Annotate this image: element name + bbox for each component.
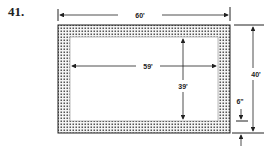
frame-dimension-diagram: 60' 59' 39' 40' 6" — [0, 0, 280, 150]
inner-width-label: 39' — [178, 83, 188, 90]
outer-width-dimension: 40' — [232, 25, 264, 133]
outer-width-label: 40' — [251, 71, 261, 78]
inner-length-label: 59' — [143, 63, 153, 70]
border-frame — [58, 25, 230, 133]
border-width-dimension: 6" — [236, 98, 248, 146]
outer-length-dimension: 60' — [58, 7, 230, 21]
border-width-label: 6" — [236, 98, 243, 105]
outer-length-label: 60' — [135, 12, 145, 19]
